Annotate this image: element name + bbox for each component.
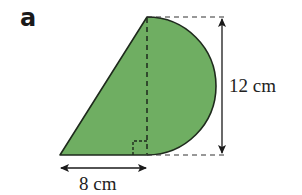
composite-shape — [60, 17, 216, 155]
base-label: 8 cm — [79, 173, 117, 194]
composite-shape-diagram: 12 cm 8 cm — [0, 0, 302, 195]
height-label: 12 cm — [229, 75, 276, 96]
